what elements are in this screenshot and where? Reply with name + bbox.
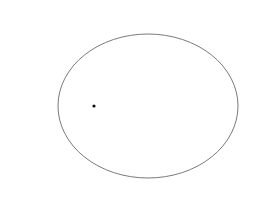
- point-marker: [92, 104, 95, 107]
- diagram-svg: [0, 0, 258, 206]
- ellipse-shape: [58, 34, 238, 178]
- diagram-canvas: [0, 0, 258, 206]
